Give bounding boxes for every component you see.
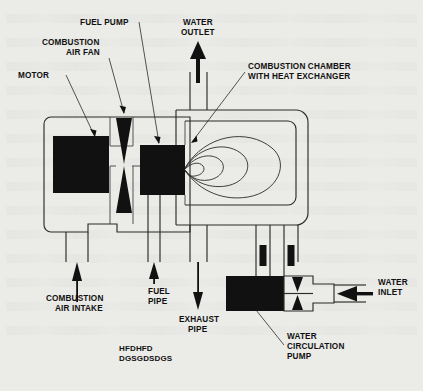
label-combustion-air-intake-line2: AIR INTAKE xyxy=(55,304,103,313)
label-combustion-chamber-line2: WITH HEAT EXCHANGER xyxy=(248,72,350,81)
leader-fuel-pump xyxy=(139,22,159,143)
flame-middle xyxy=(185,147,248,187)
label-combustion-chamber-line1: COMBUSTION CHAMBER xyxy=(248,62,351,71)
label-water-outlet-line1: WATER xyxy=(183,18,213,27)
label-water-inlet-line2: INLET xyxy=(378,288,402,297)
label-exhaust-pipe-line1: EXHAUST xyxy=(179,315,219,324)
motor-block xyxy=(53,136,109,193)
leader-combustion-air-fan xyxy=(109,58,124,113)
label-exhaust-pipe-line2: PIPE xyxy=(188,325,208,334)
label-water-outlet-line2: OUTLET xyxy=(181,28,215,37)
leader-arrowhead-fan xyxy=(120,106,127,115)
label-combustion-air-fan-line1: COMBUSTION xyxy=(42,38,99,47)
combustion-air-fan-upper-blade xyxy=(116,118,132,164)
label-fuel-pipe-line1: FUEL xyxy=(148,287,170,296)
fuel-pump-block xyxy=(140,145,185,195)
exhaust-arrow-icon xyxy=(193,262,203,310)
label-placeholder-line2: DGSGDSDGS xyxy=(119,354,173,363)
water-inlet-arrow-icon xyxy=(337,286,373,302)
pump-impeller-lower-blade xyxy=(292,295,303,310)
pipe-connector-left xyxy=(260,245,267,266)
leader-arrowhead-fuel-pump xyxy=(154,136,161,144)
figure-canvas: MOTOR COMBUSTION AIR FAN FUEL PUMP WATER… xyxy=(0,0,423,391)
leader-motor xyxy=(66,75,95,137)
label-combustion-air-fan-line2: AIR FAN xyxy=(66,48,100,57)
label-water-circulation-pump-line1: WATER xyxy=(287,332,317,341)
label-fuel-pump: FUEL PUMP xyxy=(80,18,129,27)
flame-outer xyxy=(185,137,280,198)
leader-arrowhead-motor xyxy=(90,129,97,137)
heat-exchanger-outer-jacket xyxy=(176,110,308,225)
water-circulation-pump-motor xyxy=(226,276,284,311)
leader-arrowhead-chamber xyxy=(191,136,198,144)
label-water-inlet-line1: WATER xyxy=(378,278,408,287)
pipe-connector-right xyxy=(288,245,295,266)
label-motor: MOTOR xyxy=(18,71,49,80)
fuel-pipe-arrow-icon xyxy=(149,262,159,284)
pump-impeller-upper-blade xyxy=(292,277,303,292)
label-water-circulation-pump-line2: CIRCULATION xyxy=(287,342,344,351)
heater-schematic: MOTOR COMBUSTION AIR FAN FUEL PUMP WATER… xyxy=(0,0,423,391)
water-outlet-arrow-icon xyxy=(190,41,206,83)
label-placeholder-line1: HFDHFD xyxy=(119,344,153,353)
combustion-air-fan-lower-blade xyxy=(116,166,132,213)
label-combustion-air-intake-line1: COMBUSTION xyxy=(46,294,103,303)
label-water-circulation-pump-line3: PUMP xyxy=(287,352,312,361)
heat-exchanger-inner-wall xyxy=(185,121,296,205)
label-fuel-pipe-line2: PIPE xyxy=(148,297,168,306)
